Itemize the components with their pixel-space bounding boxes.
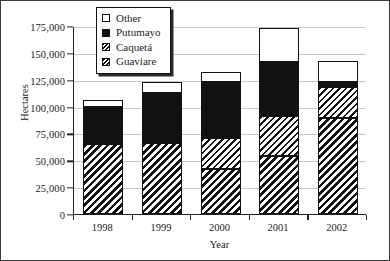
bar-segment-other	[142, 82, 182, 92]
legend-item-caqueta: Caquetá	[102, 40, 161, 55]
y-tick-label: 150,000	[30, 48, 65, 59]
bar-segment-guaviare	[142, 143, 182, 214]
y-tick-label: 50,000	[36, 156, 65, 167]
bar-segment-putumayo	[201, 82, 241, 138]
legend-label: Other	[116, 13, 141, 24]
x-tick-label: 2001	[248, 222, 308, 233]
bar-segment-other	[318, 61, 358, 82]
bar-segment-putumayo	[318, 82, 358, 87]
bar-segment-other	[201, 72, 241, 82]
black-square-icon	[102, 29, 110, 37]
x-tick-label: 1999	[131, 222, 191, 233]
bar-segment-guaviare	[318, 118, 358, 214]
legend-item-other: Other	[102, 11, 161, 26]
bar-segment-putumayo	[259, 62, 299, 116]
bar-segment-guaviare	[83, 144, 123, 214]
bar-segment-caqueta	[201, 138, 241, 169]
legend-label: Guaviare	[116, 56, 156, 67]
y-tick-mark	[67, 53, 73, 54]
y-tick-label: 75,000	[36, 129, 65, 140]
y-tick-label: 125,000	[30, 75, 65, 86]
bar-group-2002	[318, 26, 358, 214]
y-tick-label: 100,000	[30, 102, 65, 113]
bar-segment-guaviare	[201, 169, 241, 214]
bar-segment-other	[83, 100, 123, 106]
y-tick-label: 0	[60, 210, 65, 221]
x-tick-mark	[190, 215, 191, 220]
y-axis: 025,00050,00075,000100,000125,000150,000…	[1, 27, 65, 215]
y-tick-mark	[67, 107, 73, 108]
x-tick-label: 1998	[72, 222, 132, 233]
y-tick-mark	[67, 26, 73, 27]
y-tick-label: 175,000	[30, 22, 65, 33]
bar-segment-other	[259, 28, 299, 62]
y-tick-mark	[67, 80, 73, 81]
y-tick-label: 25,000	[36, 183, 65, 194]
bar-segment-putumayo	[142, 93, 182, 143]
x-tick-label: 2000	[190, 222, 250, 233]
x-axis-title: Year	[73, 239, 366, 250]
white-square-icon	[102, 14, 110, 22]
x-tick-mark	[249, 215, 250, 220]
y-tick-mark	[67, 134, 73, 135]
bar-group-2001	[259, 26, 299, 214]
bar-segment-caqueta	[259, 116, 299, 155]
x-tick-mark	[366, 215, 367, 220]
chart-figure: Hectares 025,00050,00075,000100,000125,0…	[0, 0, 390, 261]
x-tick-mark	[73, 215, 74, 220]
bar-segment-putumayo	[83, 107, 123, 144]
legend-item-putumayo: Putumayo	[102, 26, 161, 41]
y-tick-mark	[67, 187, 73, 188]
legend-item-guaviare: Guaviare	[102, 55, 161, 70]
hatched-square-icon	[102, 43, 110, 51]
bar-segment-guaviare	[259, 156, 299, 214]
dense-hatched-square-icon	[102, 58, 110, 66]
y-tick-mark	[67, 161, 73, 162]
bar-segment-caqueta	[318, 87, 358, 118]
bar-group-2000	[201, 26, 241, 214]
x-tick-mark	[307, 215, 308, 220]
chart-legend: OtherPutumayoCaquetáGuaviare	[96, 7, 171, 74]
x-tick-mark	[132, 215, 133, 220]
legend-label: Putumayo	[116, 27, 161, 38]
x-tick-label: 2002	[307, 222, 367, 233]
legend-label: Caquetá	[116, 42, 152, 53]
